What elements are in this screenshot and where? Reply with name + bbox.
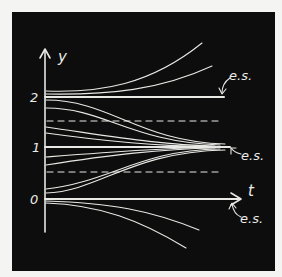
tick-label-2: 2 (30, 90, 38, 105)
y-axis-label: y (57, 48, 68, 66)
curves-below-0 (46, 201, 199, 248)
annotation-es-y2: e.s. (219, 68, 252, 94)
annotation-es-y1: e.s. (231, 148, 264, 163)
solution-curves-diagram: y 2 1 0 t e.s. (0, 0, 282, 277)
tick-label-0: 0 (30, 192, 38, 207)
svg-text:e.s.: e.s. (229, 68, 252, 83)
t-axis-label: t (248, 182, 255, 200)
annotation-es-y0: e.s. (229, 203, 263, 226)
tick-label-1: 1 (32, 140, 40, 155)
curves-between-1-and-2 (46, 100, 225, 147)
y-axis (40, 49, 50, 232)
curves-above-2 (46, 43, 212, 94)
curves-between-0-and-1 (46, 148, 225, 194)
svg-text:e.s.: e.s. (240, 211, 263, 226)
svg-text:e.s.: e.s. (241, 148, 264, 163)
